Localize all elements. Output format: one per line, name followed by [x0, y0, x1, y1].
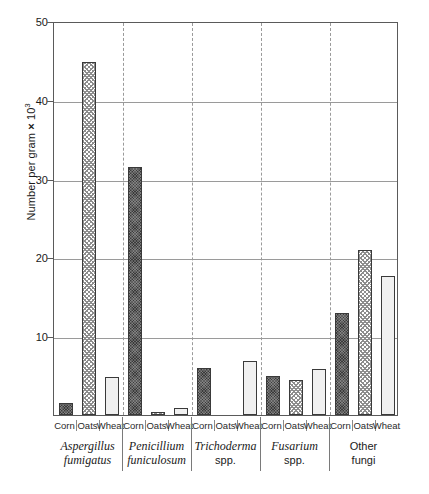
bar-corn-group-5 [335, 313, 349, 415]
group-label-2: Penicilliumfuniculosum [127, 439, 186, 467]
group-label-5: Otherfungi [350, 439, 378, 467]
group-separator-below-3 [260, 417, 261, 471]
bar-wheat-group-5 [381, 276, 395, 415]
bar-oats-group-1 [82, 62, 96, 415]
group-label-line2: fumigatus [60, 453, 114, 467]
y-axis-title-multiplier: 10 [25, 108, 37, 120]
bar-oats-group-4 [289, 380, 303, 415]
y-tick-label-10: 10 [14, 331, 48, 343]
x-tick-label-corn-group-1: Corn [54, 420, 75, 431]
gridline-30 [54, 181, 397, 182]
group-separator-2 [192, 23, 193, 415]
y-tick-label-20: 20 [14, 252, 48, 264]
group-label-4: Fusariumspp. [271, 439, 318, 467]
group-label-line1: Trichoderma [194, 439, 256, 453]
bar-oats-group-2 [151, 412, 165, 415]
group-separator-below-2 [191, 417, 192, 471]
bar-wheat-group-1 [105, 377, 119, 415]
x-tick-label-oats-group-1: Oats [77, 420, 97, 431]
x-tick-label-wheat-group-5: Wheat [373, 420, 400, 431]
y-tick-label-50: 50 [14, 16, 48, 28]
x-tick-label-wheat-group-4: Wheat [304, 420, 331, 431]
group-separator-1 [123, 23, 124, 415]
group-label-line2: spp. [271, 453, 318, 467]
group-separator-4 [330, 23, 331, 415]
group-separator-below-4 [329, 417, 330, 471]
group-label-line2: spp. [194, 453, 256, 467]
gridline-40 [54, 102, 397, 103]
bar-wheat-group-2 [174, 408, 188, 415]
bar-oats-group-5 [358, 250, 372, 415]
group-label-line1: Other [350, 439, 378, 453]
x-tick-label-oats-group-5: Oats [353, 420, 373, 431]
plot-area [53, 22, 398, 416]
x-tick-label-wheat-group-1: Wheat [97, 420, 124, 431]
y-tick-label-30: 30 [14, 174, 48, 186]
group-label-line2: funiculosum [127, 453, 186, 467]
group-label-3: Trichodermaspp. [194, 439, 256, 467]
gridline-20 [54, 259, 397, 260]
bar-corn-group-1 [59, 403, 73, 415]
x-tick-label-wheat-group-2: Wheat [166, 420, 193, 431]
bar-corn-group-4 [266, 376, 280, 415]
x-tick-label-oats-group-2: Oats [146, 420, 166, 431]
group-label-line1: Penicillium [127, 439, 186, 453]
group-label-1: Aspergillusfumigatus [60, 439, 114, 467]
group-separator-3 [261, 23, 262, 415]
y-axis-title: Number per gram × 103 [23, 62, 37, 262]
x-tick-label-wheat-group-3: Wheat [235, 420, 262, 431]
bar-chart-figure: Number per gram × 103 1020304050 CornOat… [0, 0, 429, 494]
group-label-line1: Aspergillus [60, 439, 114, 453]
group-separator-below-1 [122, 417, 123, 471]
group-label-line1: Fusarium [271, 439, 318, 453]
bar-wheat-group-4 [312, 369, 326, 415]
group-label-line2: fungi [350, 453, 378, 467]
x-tick-label-oats-group-3: Oats [215, 420, 235, 431]
bar-wheat-group-3 [243, 361, 257, 415]
bar-corn-group-2 [128, 167, 142, 415]
x-tick-label-corn-group-2: Corn [123, 420, 144, 431]
x-tick-label-corn-group-4: Corn [261, 420, 282, 431]
bar-corn-group-3 [197, 368, 211, 415]
multiply-icon: × [25, 123, 37, 130]
x-tick-label-corn-group-5: Corn [330, 420, 351, 431]
x-tick-label-corn-group-3: Corn [192, 420, 213, 431]
y-tick-label-40: 40 [14, 95, 48, 107]
x-tick-label-oats-group-4: Oats [284, 420, 304, 431]
